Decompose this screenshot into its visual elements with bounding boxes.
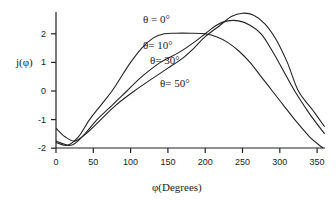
line-chart: -2-1012 050100150200250300350 θ = 0°θ= 1… xyxy=(0,0,336,203)
x-axis-title: φ(Degrees) xyxy=(152,181,202,194)
x-tick-label: 250 xyxy=(235,157,250,167)
x-ticks: 050100150200250300350 xyxy=(53,148,324,167)
x-tick-label: 100 xyxy=(123,157,138,167)
x-tick-label: 150 xyxy=(160,157,175,167)
series-line xyxy=(56,33,323,148)
series-labels: θ = 0°θ= 10°θ= 30°θ= 50° xyxy=(143,13,190,89)
x-tick-label: 350 xyxy=(310,157,325,167)
x-tick-label: 0 xyxy=(53,157,58,167)
x-tick-label: 300 xyxy=(272,157,287,167)
y-tick-label: -2 xyxy=(38,143,46,153)
y-tick-label: 1 xyxy=(41,57,46,67)
x-tick-label: 50 xyxy=(88,157,98,167)
series-line xyxy=(56,20,325,145)
series-label: θ= 10° xyxy=(143,39,173,51)
axes xyxy=(56,12,325,148)
y-tick-label: 0 xyxy=(41,86,46,96)
y-ticks: -2-1012 xyxy=(38,29,56,153)
series-lines xyxy=(56,13,325,148)
series-label: θ= 50° xyxy=(160,77,190,89)
x-tick-label: 200 xyxy=(198,157,213,167)
series-line xyxy=(56,13,325,141)
series-label: θ= 30° xyxy=(150,54,180,66)
series-label: θ = 0° xyxy=(143,13,170,25)
y-axis-title: j(φ) xyxy=(15,56,33,69)
y-tick-label: 2 xyxy=(41,29,46,39)
y-tick-label: -1 xyxy=(38,115,46,125)
